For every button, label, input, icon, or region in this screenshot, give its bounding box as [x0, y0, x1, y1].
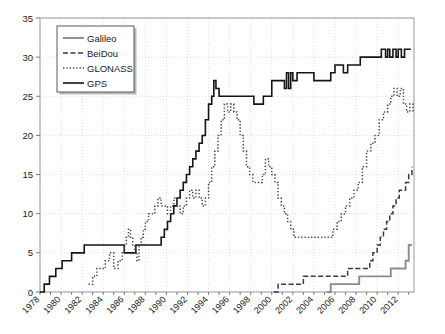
legend-label-beidou: BeiDou: [87, 48, 118, 59]
legend-label-galileo: Galileo: [87, 33, 117, 44]
x-axis-tick-label: 1998: [231, 294, 252, 315]
y-axis-tick-label: 20: [22, 130, 33, 141]
x-axis-tick-label: 1986: [104, 294, 125, 315]
series-line-galileo: [327, 245, 412, 292]
y-axis-tick-label: 25: [22, 91, 33, 102]
legend-label-glonass: GLONASS: [87, 63, 133, 74]
x-axis-tick-label: 1996: [210, 294, 231, 315]
chart-canvas: 0510152025303519781980198219841986198819…: [0, 0, 445, 334]
x-axis-tick-label: 2002: [273, 294, 294, 315]
x-axis-tick-label: 1978: [20, 294, 41, 315]
x-axis-tick-label: 2012: [378, 294, 399, 315]
x-axis-tick-label: 1980: [41, 294, 62, 315]
y-axis-tick-label: 5: [28, 247, 33, 258]
x-axis-tick-label: 2006: [315, 294, 336, 315]
y-axis-tick-label: 10: [22, 208, 33, 219]
x-axis-tick-label: 1988: [126, 294, 147, 315]
x-axis-tick-label: 2008: [336, 294, 357, 315]
x-axis-tick-label: 2010: [357, 294, 378, 315]
gnss-satellite-chart: 0510152025303519781980198219841986198819…: [0, 0, 445, 334]
x-axis-tick-label: 2004: [294, 294, 315, 315]
x-axis-tick-label: 1982: [62, 294, 83, 315]
x-axis-tick-label: 2000: [252, 294, 273, 315]
x-axis-tick-label: 1990: [147, 294, 168, 315]
x-axis-tick-label: 1994: [189, 294, 210, 315]
y-axis-tick-label: 30: [22, 52, 33, 63]
legend-label-gps: GPS: [87, 78, 107, 89]
x-axis-tick-label: 1984: [83, 294, 104, 315]
y-axis-tick-label: 15: [22, 169, 33, 180]
x-axis-tick-label: 1992: [168, 294, 189, 315]
y-axis-tick-label: 35: [22, 13, 33, 24]
